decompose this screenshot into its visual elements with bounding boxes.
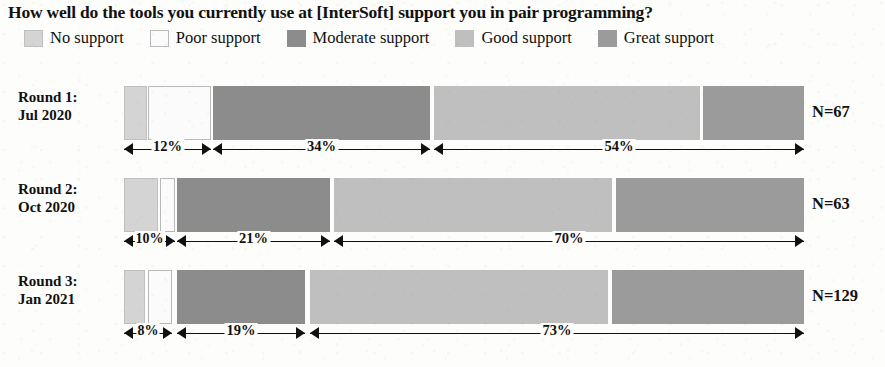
percent-value: 8% (137, 323, 160, 338)
row-label-date: Jul 2020 (18, 106, 123, 124)
sample-size-label: N=63 (812, 194, 850, 214)
bar-segment-no-support (124, 270, 145, 324)
percent-annotation: 12% (124, 141, 211, 159)
bar-segment-moderate-support (213, 86, 430, 140)
arrow-left-icon (334, 235, 343, 247)
percent-annotation: 73% (310, 325, 804, 343)
legend-swatch-no-support (24, 30, 43, 47)
bar-segment-great-support (616, 178, 804, 232)
arrow-left-icon (310, 327, 319, 339)
percent-value: 34% (305, 139, 338, 155)
bar-segment-good-support (434, 86, 700, 140)
legend-label-moderate-support: Moderate support (313, 28, 430, 48)
percent-value: 19% (225, 323, 258, 339)
legend-swatch-good-support (455, 30, 474, 47)
sample-size-label: N=67 (812, 102, 850, 122)
arrow-left-icon (177, 327, 186, 339)
arrow-right-icon (321, 235, 330, 247)
row-label-round: Round 3: (18, 272, 123, 290)
row-label: Round 2:Oct 2020 (18, 180, 123, 217)
bar-segment-poor-support (160, 178, 175, 232)
legend-label-good-support: Good support (481, 28, 571, 48)
legend-item-great-support: Great support (598, 28, 714, 48)
percent-value: 70% (553, 231, 586, 247)
arrow-left-icon (434, 143, 443, 155)
arrow-left-icon (177, 235, 186, 247)
arrow-right-icon (421, 143, 430, 155)
bar-segment-moderate-support (177, 178, 330, 232)
percent-annotation: 70% (334, 233, 804, 251)
bar-segment-moderate-support (177, 270, 305, 324)
legend-label-no-support: No support (50, 28, 124, 48)
legend-swatch-moderate-support (287, 30, 306, 47)
legend-item-no-support: No support (24, 28, 124, 48)
percent-annotation: 8% (124, 325, 172, 343)
bar-segment-good-support (310, 270, 608, 324)
row-label: Round 1:Jul 2020 (18, 88, 123, 125)
arrow-left-icon (124, 235, 133, 247)
percent-annotation: 21% (177, 233, 330, 251)
bar-segment-poor-support (148, 86, 211, 140)
percent-annotation: 10% (124, 233, 175, 251)
percent-value: 73% (541, 323, 574, 339)
arrow-right-icon (296, 327, 305, 339)
bar-segment-poor-support (148, 270, 172, 324)
percent-value: 54% (603, 139, 636, 155)
bar-segment-good-support (334, 178, 612, 232)
bar-segment-great-support (703, 86, 804, 140)
chart-legend: No supportPoor supportModerate supportGo… (24, 27, 874, 49)
stacked-bar (124, 270, 804, 324)
arrow-left-icon (124, 143, 133, 155)
arrow-right-icon (795, 235, 804, 247)
percent-annotation: 34% (213, 141, 430, 159)
arrow-right-icon (795, 327, 804, 339)
bar-segment-great-support (612, 270, 804, 324)
arrow-right-icon (202, 143, 211, 155)
legend-item-poor-support: Poor support (150, 28, 261, 48)
sample-size-label: N=129 (812, 286, 858, 306)
chart-figure: How well do the tools you currently use … (0, 0, 885, 367)
legend-label-poor-support: Poor support (176, 28, 261, 48)
arrow-left-icon (213, 143, 222, 155)
row-label-date: Jan 2021 (18, 290, 123, 308)
legend-swatch-great-support (598, 30, 617, 47)
row-label-date: Oct 2020 (18, 198, 123, 216)
percent-annotation: 54% (434, 141, 804, 159)
percent-value: 21% (237, 231, 270, 247)
stacked-bar (124, 86, 804, 140)
row-label-round: Round 1: (18, 88, 123, 106)
arrow-right-icon (795, 143, 804, 155)
bar-segment-no-support (124, 178, 158, 232)
percent-annotation: 19% (177, 325, 305, 343)
legend-item-moderate-support: Moderate support (287, 28, 430, 48)
stacked-bar (124, 178, 804, 232)
row-label-round: Round 2: (18, 180, 123, 198)
row-label: Round 3:Jan 2021 (18, 272, 123, 309)
legend-label-great-support: Great support (624, 28, 714, 48)
arrow-left-icon (124, 327, 133, 339)
legend-swatch-poor-support (150, 30, 169, 47)
chart-title: How well do the tools you currently use … (8, 2, 878, 23)
legend-item-good-support: Good support (455, 28, 571, 48)
percent-value: 10% (135, 231, 165, 246)
bar-segment-no-support (124, 86, 147, 140)
percent-value: 12% (151, 139, 184, 155)
arrow-right-icon (166, 235, 175, 247)
arrow-right-icon (163, 327, 172, 339)
